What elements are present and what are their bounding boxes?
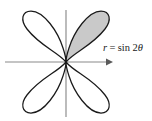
equation-function: sin — [118, 42, 133, 53]
x-axis-arrowhead-icon — [106, 59, 113, 66]
petal-lower-right — [66, 62, 109, 113]
polar-equation-label: r = sin 2θ — [103, 42, 143, 54]
equation-angle-theta: θ — [138, 42, 143, 53]
petal-lower-left — [23, 62, 66, 113]
petal-upper-left — [23, 11, 66, 62]
equation-operator: = — [109, 42, 117, 53]
polar-rose-figure: r = sin 2θ — [0, 0, 152, 121]
petal-upper-right-shaded — [66, 11, 109, 62]
rose-curve-svg — [0, 0, 152, 121]
